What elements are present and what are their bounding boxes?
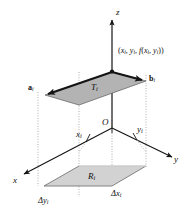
tangent-parallelogram-label: Ti xyxy=(91,83,98,93)
base-rectangle-label: Ri xyxy=(88,172,95,182)
surface-point-dot xyxy=(110,69,114,73)
z-axis-label: z xyxy=(116,8,120,17)
surface-point-label: (xi, yi, f(xi, yi)) xyxy=(118,47,164,56)
x-i-tick-label: xi xyxy=(76,130,82,140)
math-figure: z x y O xi yi Ti Ri ai bi (xi, yi, f(xi,… xyxy=(0,0,195,211)
origin-label: O xyxy=(102,118,109,127)
x-i-subscript: i xyxy=(80,132,82,139)
y-i-subscript: i xyxy=(141,127,143,134)
dy-base: Δy xyxy=(38,195,47,205)
figure-canvas xyxy=(0,0,195,211)
dy-subscript: i xyxy=(47,199,49,205)
vec-a-subscript: i xyxy=(32,86,34,92)
t-subscript: i xyxy=(96,85,98,92)
y-axis-label: y xyxy=(174,155,178,164)
y-i-tick-label: yi xyxy=(137,125,143,135)
vector-a-label: ai xyxy=(28,84,34,93)
dx-base: Δx xyxy=(111,188,120,198)
r-subscript: i xyxy=(94,174,96,181)
vector-b-label: bi xyxy=(149,75,155,84)
x-axis-label: x xyxy=(13,176,17,185)
delta-y-label: Δyi xyxy=(38,196,48,205)
vec-b-subscript: i xyxy=(153,77,155,83)
delta-x-label: Δxi xyxy=(111,189,121,198)
pt-close: ) xyxy=(161,46,164,55)
dx-subscript: i xyxy=(120,192,122,198)
